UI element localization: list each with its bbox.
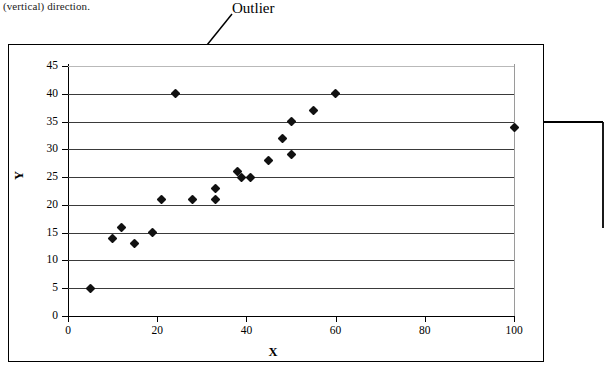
x-tick-20 [157,316,158,322]
x-tick-80 [425,316,426,322]
y-tick-label-5: 5 [28,282,58,294]
y-tick-label-20: 20 [28,199,58,211]
x-tick-100 [514,316,515,322]
y-tick-label-text: 45 [32,60,58,72]
x-tick-40 [246,316,247,322]
x-tick-label-100: 100 [494,325,534,337]
y-tick-label-text: 35 [32,116,58,128]
data-point [264,155,274,165]
y-tick-label-40: 40 [28,88,58,100]
x-axis-title: X [0,345,546,360]
x-tick-label-0: 0 [48,325,88,337]
y-tick-label-25: 25 [28,171,58,183]
data-point [277,133,287,143]
data-point [85,283,95,293]
x-tick-label-20: 20 [137,325,177,337]
y-tick-label-10: 10 [28,254,58,266]
y-tick-label-35: 35 [28,116,58,128]
x-tick-label-60: 60 [316,325,356,337]
data-point [210,183,220,193]
y-tick-label-45: 45 [28,60,58,72]
data-point [308,105,318,115]
y-tick-label-text: 20 [32,199,58,211]
data-point [188,194,198,204]
document-text-fragment: (vertical) direction. [3,0,90,12]
data-point [148,228,158,238]
y-tick-label-text: 15 [32,227,58,239]
data-point [170,89,180,99]
x-tick-label-40: 40 [226,325,266,337]
plot-area [68,66,514,316]
data-point [130,239,140,249]
data-point [117,222,127,232]
y-tick-label-text: 5 [32,282,58,294]
y-tick-label-30: 30 [28,143,58,155]
page-canvas: (vertical) direction. Outlier 0510152025… [0,0,606,385]
y-tick-label-15: 15 [28,227,58,239]
data-point [157,194,167,204]
x-axis-line [67,316,515,317]
plot-right-border [514,64,515,318]
x-tick-0 [68,316,69,322]
y-tick-label-text: 40 [32,88,58,100]
y-tick-label-text: 0 [32,310,58,322]
data-point [286,117,296,127]
data-point [331,89,341,99]
x-tick-label-80: 80 [405,325,445,337]
x-tick-60 [336,316,337,322]
y-tick-label-0: 0 [28,310,58,322]
data-point [246,172,256,182]
y-tick-label-text: 10 [32,254,58,266]
y-tick-label-text: 25 [32,171,58,183]
data-point [108,233,118,243]
data-point [210,194,220,204]
y-axis-title: Y [12,171,27,180]
data-point [286,150,296,160]
y-tick-label-text: 30 [32,143,58,155]
